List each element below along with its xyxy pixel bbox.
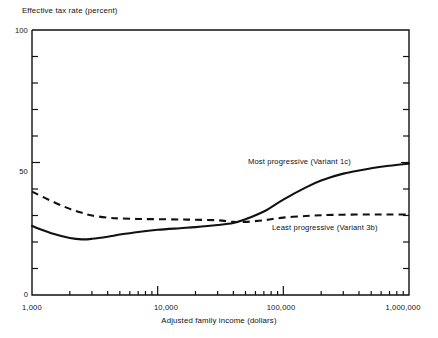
axes-group <box>32 30 409 295</box>
series-line-most-progressive <box>32 164 409 240</box>
series-line-least-progressive <box>32 192 409 222</box>
chart-canvas <box>0 0 438 338</box>
y-axis-ticks-left <box>32 57 40 269</box>
chart-figure: Effective tax rate (percent) 100 50 0 1,… <box>0 0 438 338</box>
y-axis-ticks-right <box>401 57 409 269</box>
x-axis-ticks <box>70 286 403 295</box>
plot-frame <box>32 30 409 295</box>
